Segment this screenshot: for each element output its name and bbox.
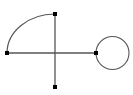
edge-arc-left-top xyxy=(7,14,55,53)
self-loop-circle-right xyxy=(96,37,129,70)
vertex-right xyxy=(94,51,98,55)
vertex-bottom xyxy=(53,85,57,89)
graph-diagram-svg xyxy=(0,0,133,95)
vertex-left xyxy=(5,51,9,55)
graph-diagram-canvas xyxy=(0,0,133,95)
vertex-top xyxy=(53,12,57,16)
